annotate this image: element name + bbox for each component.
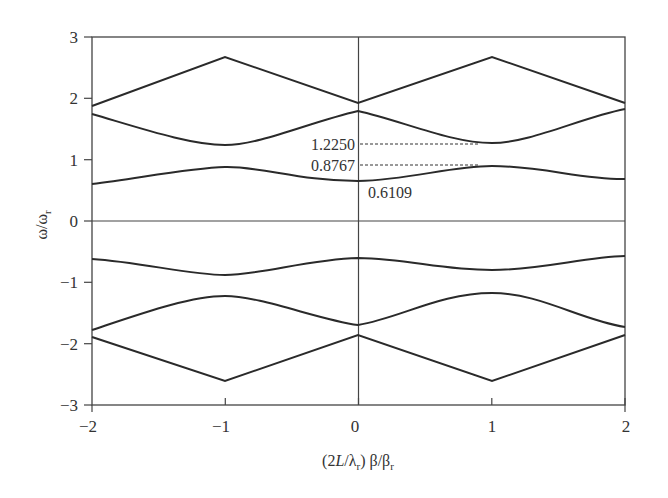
annotation-0-6109: 0.6109: [368, 184, 412, 201]
x-tick-labels: −2 −1 0 1 2: [79, 417, 630, 436]
y-tick-label: −1: [60, 273, 78, 292]
y-tick-label: −3: [60, 396, 78, 415]
y-tick-label: 1: [70, 151, 79, 170]
y-tick-label: 0: [70, 212, 79, 231]
y-tick-label: −2: [60, 335, 78, 354]
x-tick-label: 2: [622, 417, 631, 436]
band-diagram-chart: 3 2 1 0 −1 −2 −3 −2 −1 0 1 2 (2L/λr) β/β…: [0, 0, 668, 498]
y-tick-labels: 3 2 1 0 −1 −2 −3: [60, 28, 78, 415]
x-axis-label: (2L/λr) β/βr: [322, 452, 394, 472]
annotation-1-2250: 1.2250: [311, 136, 355, 153]
annotation-0-8767: 0.8767: [311, 157, 355, 174]
x-tick-label: −1: [212, 417, 230, 436]
x-tick-label: 1: [488, 417, 497, 436]
annotation-dashes: [360, 144, 480, 165]
x-tick-label: −2: [79, 417, 97, 436]
x-tick-label: 0: [351, 417, 360, 436]
y-axis-label: ω/ωr: [33, 210, 53, 240]
y-tick-label: 2: [70, 89, 79, 108]
y-ticks: [84, 37, 92, 405]
y-tick-label: 3: [70, 28, 79, 47]
